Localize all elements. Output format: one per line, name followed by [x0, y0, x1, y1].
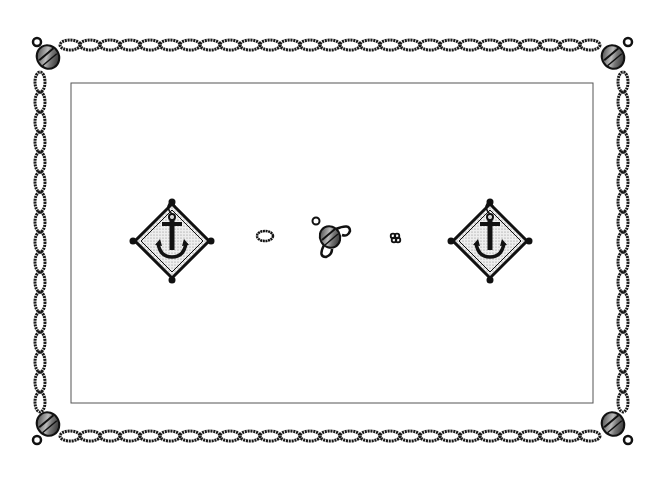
corner-buoy-top-right: [597, 38, 632, 73]
buoy-icon: [313, 218, 351, 258]
anchor-icon-right: [448, 199, 533, 284]
ring-icon: [624, 436, 632, 444]
knot-icon: [391, 234, 401, 243]
anchor-icon-left: [130, 199, 215, 284]
rope-border-design: [0, 0, 661, 478]
rope-ring-icon: [257, 231, 273, 241]
corner-buoy-bottom-left: [32, 408, 63, 444]
ring-icon: [33, 38, 41, 46]
center-motifs: [130, 199, 533, 284]
corner-buoy-bottom-right: [597, 408, 632, 444]
corner-buoy-top-left: [32, 38, 63, 73]
ring-icon: [624, 38, 632, 46]
ring-icon: [33, 436, 41, 444]
